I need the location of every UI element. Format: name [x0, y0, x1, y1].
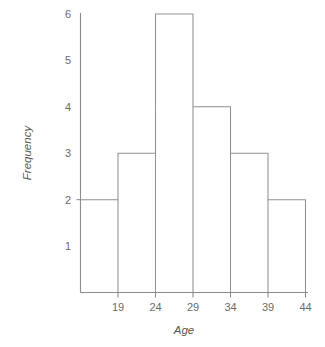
histogram-figure: 123456 192429343944 Age Frequency [0, 0, 325, 347]
y-tick-label: 2 [65, 194, 71, 206]
y-tick-label: 1 [65, 240, 71, 252]
chart-background [0, 0, 325, 347]
x-tick-label: 34 [224, 301, 236, 313]
x-tick-label: 29 [187, 301, 199, 313]
y-tick-label: 4 [65, 101, 71, 113]
histogram-svg: 123456 192429343944 Age Frequency [0, 0, 325, 347]
y-axis-title: Frequency [21, 125, 33, 181]
x-tick-label: 39 [262, 301, 274, 313]
x-tick-label: 19 [112, 301, 124, 313]
x-axis-title: Age [173, 324, 194, 336]
x-tick-label: 44 [299, 301, 311, 313]
x-tick-label: 24 [149, 301, 161, 313]
y-tick-label: 3 [65, 147, 71, 159]
y-tick-label: 6 [65, 8, 71, 20]
y-tick-label: 5 [65, 54, 71, 66]
